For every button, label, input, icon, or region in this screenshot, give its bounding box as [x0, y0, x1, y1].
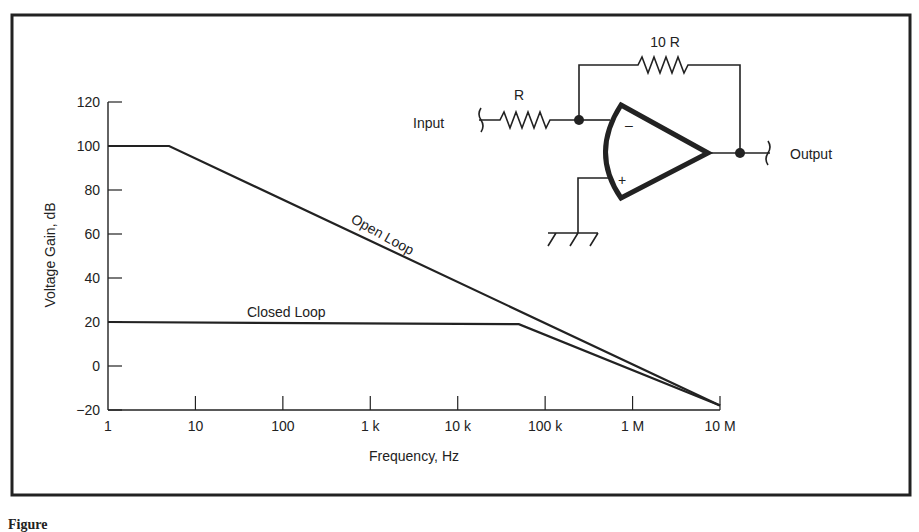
x-tick-label: 100 k [528, 418, 563, 434]
y-tick-label: 20 [84, 314, 100, 330]
feedback-resistor-icon [579, 57, 740, 153]
chart-axes: 120100806040200−20 1101001 k10 k100 k1 M… [76, 94, 735, 434]
open-loop-line [108, 146, 720, 406]
input-resistor-icon [479, 112, 579, 128]
inverting-amplifier-schematic: Input R 10 R – + Output [413, 34, 832, 246]
x-tick-label: 100 [271, 418, 295, 434]
output-node-icon [735, 148, 745, 158]
y-tick-label: 100 [77, 138, 101, 154]
x-tick-label: 10 M [704, 418, 735, 434]
y-tick-label: 80 [84, 182, 100, 198]
x-tick-label: 1 [104, 418, 112, 434]
y-axis-label: Voltage Gain, dB [42, 202, 58, 307]
feedback-resistor-label: 10 R [650, 34, 680, 50]
x-axis-label: Frequency, Hz [369, 448, 459, 464]
x-tick-label: 10 [188, 418, 204, 434]
noninverting-sign: + [618, 172, 626, 188]
ground-wire [578, 178, 608, 233]
y-tick-label: −20 [76, 402, 100, 418]
closed-loop-label: Closed Loop [247, 304, 326, 320]
output-label: Output [790, 146, 832, 162]
y-tick-label: 40 [84, 270, 100, 286]
x-tick-label: 10 k [444, 418, 471, 434]
ground-icon [548, 233, 598, 246]
x-tick-label: 1 k [361, 418, 381, 434]
input-label: Input [413, 115, 444, 131]
inverting-sign: – [625, 117, 633, 133]
series-lines [108, 146, 720, 406]
closed-loop-line [108, 322, 720, 406]
x-tick-label: 1 M [621, 418, 644, 434]
input-resistor-label: R [514, 87, 524, 103]
figure-caption: Figure [8, 517, 47, 532]
figure: 120100806040200−20 1101001 k10 k100 k1 M… [0, 0, 919, 532]
y-tick-label: 60 [84, 226, 100, 242]
y-ticks: 120100806040200−20 [76, 94, 122, 418]
x-ticks: 1101001 k10 k100 k1 M10 M [104, 396, 735, 434]
y-tick-label: 0 [92, 358, 100, 374]
y-tick-label: 120 [77, 94, 101, 110]
